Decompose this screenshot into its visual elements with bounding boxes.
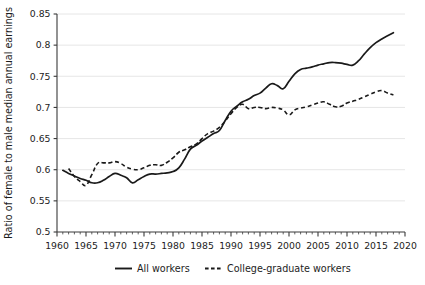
x-tick-label-1960: 1960 [45,240,69,251]
y-axis-title: Ratio of female to male median annual ea… [3,7,14,239]
legend-label-all-workers: All workers [137,263,190,274]
y-tick-label-0-5: 0.5 [36,226,51,237]
x-tick-label-2000: 2000 [277,240,301,251]
x-tick-label-2015: 2015 [364,240,388,251]
x-axis-tick-labels: 1960196519701975198019851990199520002005… [45,240,417,251]
x-tick-label-1970: 1970 [103,240,127,251]
y-tick-label-0-6: 0.6 [36,164,51,175]
x-tick-label-2020: 2020 [393,240,417,251]
x-tick-label-1990: 1990 [219,240,243,251]
x-tick-label-1965: 1965 [74,240,98,251]
x-tick-label-1975: 1975 [132,240,156,251]
chart-legend: All workersCollege-graduate workers [115,263,351,274]
data-series [63,33,394,186]
chart-figure: 0.50.550.60.650.70.750.80.85 19601965197… [0,0,425,285]
y-tick-label-0-65: 0.65 [30,133,51,144]
series-line-college-graduate-workers [69,91,394,186]
axes [57,14,405,232]
x-tick-label-1980: 1980 [161,240,185,251]
x-tick-label-1985: 1985 [190,240,214,251]
x-tick-label-2010: 2010 [335,240,359,251]
y-axis-tick-labels: 0.50.550.60.650.70.750.80.85 [30,8,51,237]
y-tick-label-0-7: 0.7 [36,102,51,113]
y-tick-label-0-75: 0.75 [30,71,51,82]
y-tick-label-0-8: 0.8 [36,39,51,50]
series-line-all-workers [63,33,394,184]
y-axis-title-text: Ratio of female to male median annual ea… [3,7,14,239]
y-tick-label-0-55: 0.55 [30,195,51,206]
x-tick-label-1995: 1995 [248,240,272,251]
y-tick-label-0-85: 0.85 [30,8,51,19]
line-chart: 0.50.550.60.650.70.750.80.85 19601965197… [0,0,425,285]
tick-marks [54,14,405,237]
gridlines [57,14,405,201]
legend-label-college-graduate-workers: College-graduate workers [227,263,351,274]
x-tick-label-2005: 2005 [306,240,330,251]
